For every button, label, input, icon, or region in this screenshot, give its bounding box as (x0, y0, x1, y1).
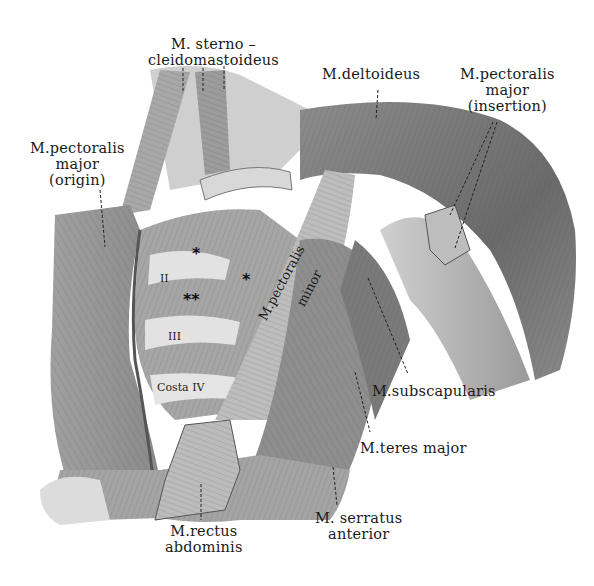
label-line: M. serratus (315, 510, 402, 526)
label-rectus-abdominis: M.rectus abdominis (165, 523, 243, 555)
label-line: M.deltoideus (322, 66, 420, 82)
anatomy-figure: M. sterno – cleidomastoideus M.deltoideu… (0, 0, 594, 586)
label-sternocleidomastoideus: M. sterno – cleidomastoideus (148, 36, 279, 68)
rib-label-2: II (160, 272, 169, 285)
label-line: major (460, 82, 555, 98)
star-marker-1: * (192, 244, 200, 263)
label-subscapularis: M.subscapularis (372, 383, 496, 399)
label-line: anterior (315, 526, 402, 542)
label-line: M. sterno – (148, 36, 279, 52)
label-pectoralis-major-insertion: M.pectoralis major (insertion) (460, 66, 555, 114)
double-star-marker: ** (183, 290, 200, 309)
star-marker-2: * (242, 270, 250, 289)
label-pectoralis-major-origin: M.pectoralis major (origin) (30, 140, 125, 188)
label-serratus-anterior: M. serratus anterior (315, 510, 402, 542)
label-line: major (30, 156, 125, 172)
label-line: (origin) (30, 172, 125, 188)
label-line: cleidomastoideus (148, 52, 279, 68)
rib-label-4: Costa IV (157, 381, 204, 394)
label-line: M.rectus (165, 523, 243, 539)
rib-label-3: III (168, 330, 181, 343)
label-line: abdominis (165, 539, 243, 555)
label-line: M.pectoralis (460, 66, 555, 82)
label-line: (insertion) (460, 98, 555, 114)
label-line: M.teres major (360, 440, 467, 456)
label-teres-major: M.teres major (360, 440, 467, 456)
label-deltoideus: M.deltoideus (322, 66, 420, 82)
label-line: M.subscapularis (372, 383, 496, 399)
label-line: M.pectoralis (30, 140, 125, 156)
